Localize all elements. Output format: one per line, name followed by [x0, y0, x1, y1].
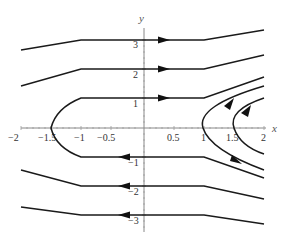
arrow-right-icon: [158, 66, 170, 73]
trajectory-upper-3: [21, 30, 264, 50]
arrow-left-icon: [118, 154, 130, 161]
y-axis-label: y: [138, 12, 144, 24]
arrow-left-icon: [118, 212, 130, 219]
phase-portrait-figure: x y −2 −1.5 −1 −0.5 0.5 1 1.5 2 3 2 1 −1…: [0, 0, 289, 238]
x-axis-label: x: [271, 122, 277, 134]
trajectory-upper-2: [21, 55, 264, 86]
x-tick-label: 0.5: [167, 132, 180, 143]
x-tick-label: −1: [74, 132, 85, 143]
trajectories: [21, 30, 264, 224]
x-tick-label: −0.5: [97, 132, 115, 143]
arrow-right-icon: [158, 37, 170, 44]
x-tick-label: −2: [8, 132, 19, 143]
arrow-left-icon: [118, 183, 130, 190]
trajectory-lower-3: [21, 207, 264, 224]
y-tick-label: 2: [133, 69, 138, 80]
y-tick-label: 1: [133, 98, 138, 109]
trajectory-parabola-1-5: [233, 98, 264, 154]
trajectory-lower-2: [21, 170, 264, 199]
arrow-right-icon: [158, 95, 170, 102]
x-tick-label: 2: [261, 132, 266, 143]
arrow-up-icon: [241, 105, 251, 117]
